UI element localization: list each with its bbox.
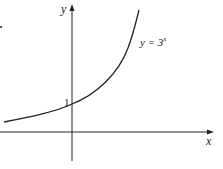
- intercept-label: 1: [64, 96, 70, 108]
- x-axis-label: x: [205, 134, 212, 148]
- y-axis-label: y: [60, 2, 67, 16]
- y-axis-arrow-icon: [70, 4, 75, 11]
- exponential-graph: y x 1 y = 3x: [0, 0, 223, 169]
- stray-mark: [0, 26, 2, 28]
- curve-label: y = 3x: [139, 35, 167, 48]
